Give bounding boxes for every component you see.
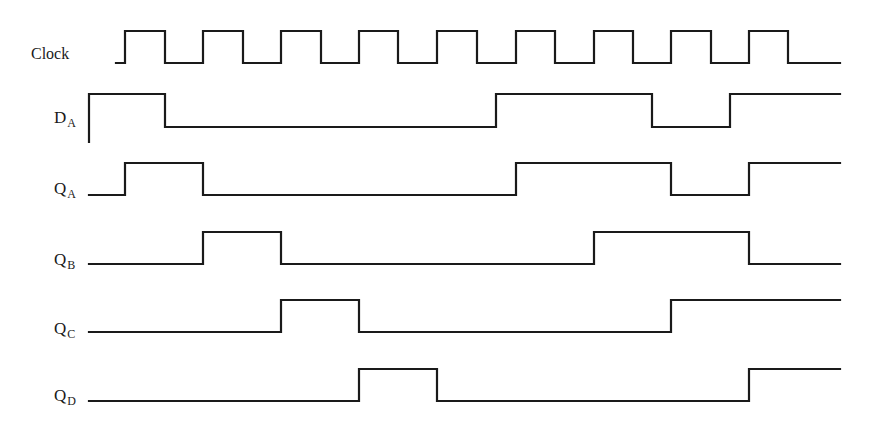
qd-label-subscript: D	[67, 394, 76, 408]
qc-label: QC	[54, 320, 75, 337]
clock-label: Clock	[31, 46, 69, 62]
timing-diagram	[0, 0, 869, 424]
qb-label-text: Q	[54, 250, 66, 269]
da-waveform	[89, 94, 840, 142]
da-label-text: D	[54, 108, 66, 127]
qa-label-text: Q	[54, 179, 66, 198]
qc-waveform	[89, 300, 840, 332]
qb-label: QB	[54, 251, 75, 268]
qb-waveform	[89, 232, 840, 264]
clock-label-text: Clock	[31, 45, 69, 62]
qd-waveform	[89, 369, 840, 401]
qd-label-text: Q	[54, 386, 66, 405]
da-label: DA	[54, 109, 76, 126]
qc-label-subscript: C	[67, 327, 75, 341]
qa-label: QA	[54, 180, 76, 197]
qd-label: QD	[54, 387, 76, 404]
qb-label-subscript: B	[67, 258, 75, 272]
clock-waveform	[116, 31, 840, 63]
da-label-subscript: A	[67, 116, 76, 130]
qa-label-subscript: A	[67, 187, 76, 201]
qc-label-text: Q	[54, 319, 66, 338]
qa-waveform	[89, 163, 840, 195]
